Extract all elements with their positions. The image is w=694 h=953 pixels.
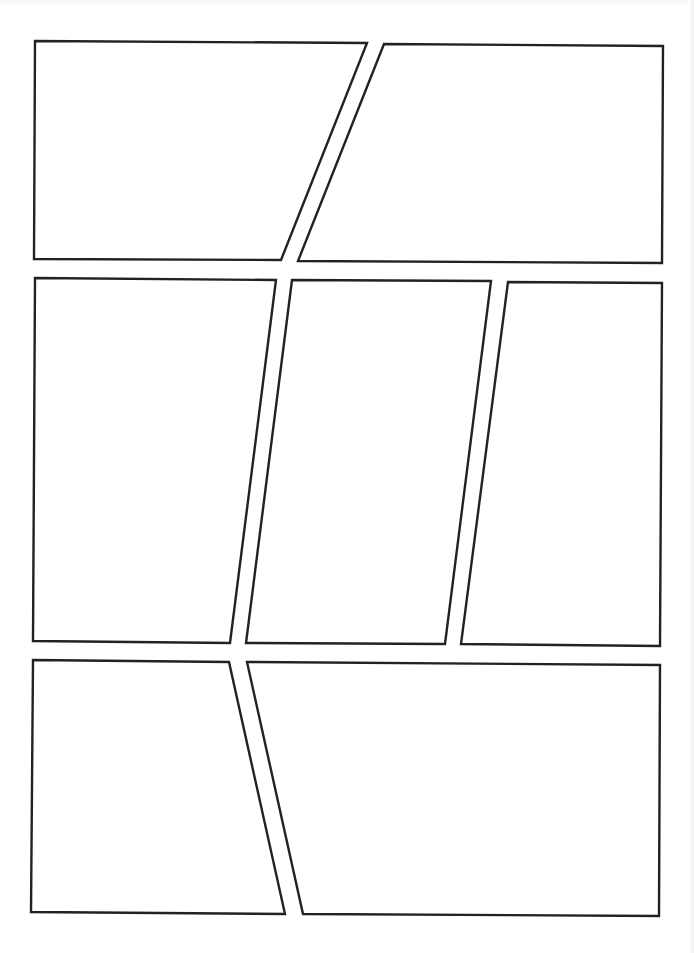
panel-grid <box>0 0 694 953</box>
scan-shadow-right <box>688 0 694 953</box>
scan-shadow-top <box>0 0 694 6</box>
panel-7 <box>247 662 660 916</box>
panel-4 <box>246 280 491 644</box>
panel-3 <box>33 278 276 643</box>
panel-5 <box>461 282 662 646</box>
comic-page <box>0 0 694 953</box>
panel-6 <box>31 660 285 914</box>
